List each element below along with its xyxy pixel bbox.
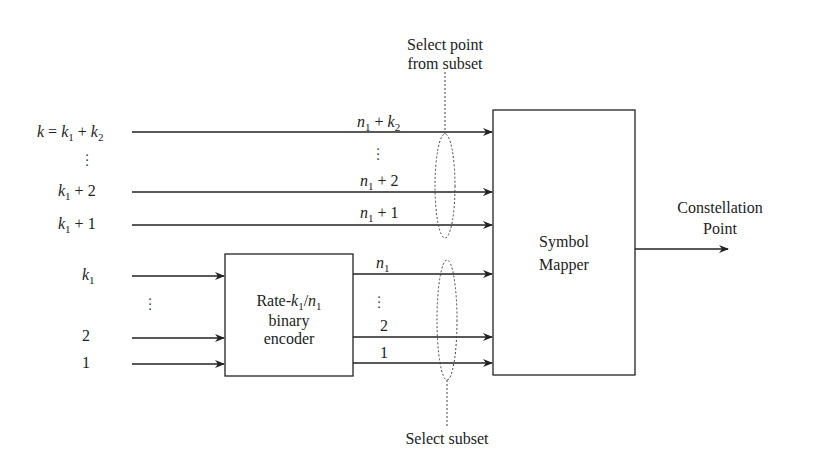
encoder-label-encoder: encoder: [225, 330, 353, 348]
mapper-label-mapper: Mapper: [493, 256, 635, 274]
label-uncoded-ellipsis: ···: [373, 147, 383, 162]
select-subset-ellipse: [437, 260, 457, 380]
label-input-ellipsis-top: ···: [82, 153, 92, 168]
label-input-ellipsis-bottom: ···: [145, 297, 155, 312]
label-input-1: 1: [82, 354, 90, 372]
label-coded-2: 2: [380, 317, 388, 335]
output-label-point: Point: [660, 220, 780, 238]
output-label-constellation: Constellation: [660, 199, 780, 217]
label-uncoded-n1p2: n1 + 2: [360, 172, 399, 191]
annotation-select-subset: Select subset: [387, 430, 507, 448]
encoder-label-binary: binary: [225, 312, 353, 330]
annotation-from-subset: from subset: [385, 55, 505, 73]
label-uncoded-n1k2: n1 + k2: [357, 113, 400, 132]
label-coded-1: 1: [380, 344, 388, 362]
label-input-k1: k1: [82, 266, 95, 285]
label-input-k1p2: k1 + 2: [58, 182, 96, 201]
label-coded-ellipsis: ···: [374, 295, 384, 310]
label-uncoded-n1p1: n1 + 1: [360, 204, 399, 223]
label-coded-n1: n1: [376, 254, 390, 273]
label-input-2: 2: [82, 327, 90, 345]
label-input-k: k = k1 + k2: [37, 123, 103, 142]
annotation-select-point: Select point: [385, 36, 505, 54]
encoder-label-rate: Rate-k1/n1: [225, 292, 353, 311]
label-input-k1p1: k1 + 1: [58, 215, 96, 234]
mapper-label-symbol: Symbol: [493, 233, 635, 251]
select-point-ellipse: [435, 134, 455, 238]
